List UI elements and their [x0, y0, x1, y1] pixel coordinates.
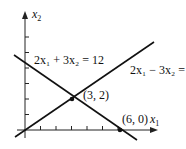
- y-axis-label: x2: [31, 7, 41, 23]
- y-ticks: [25, 37, 29, 115]
- line-2x1-plus-3x2-eq-12: [14, 55, 137, 140]
- equation-label-1: 2x₁ + 3x₂ = 12: [34, 53, 104, 67]
- point-6-0: [118, 128, 123, 133]
- equation-label-2: 2x₁ − 3x₂ = 0: [130, 63, 186, 77]
- x-axis-label: x1: [149, 112, 159, 128]
- y-axis-arrow-icon: [22, 11, 28, 19]
- point-label-6-0: (6, 0): [122, 112, 148, 126]
- x-ticks: [41, 126, 119, 130]
- point-3-2: [70, 97, 75, 102]
- diagram-canvas: x2 x1 2x₁ + 3x₂ = 12 2x₁ − 3x₂ = 0 (3, 2…: [0, 0, 186, 149]
- point-label-3-2: (3, 2): [83, 88, 109, 102]
